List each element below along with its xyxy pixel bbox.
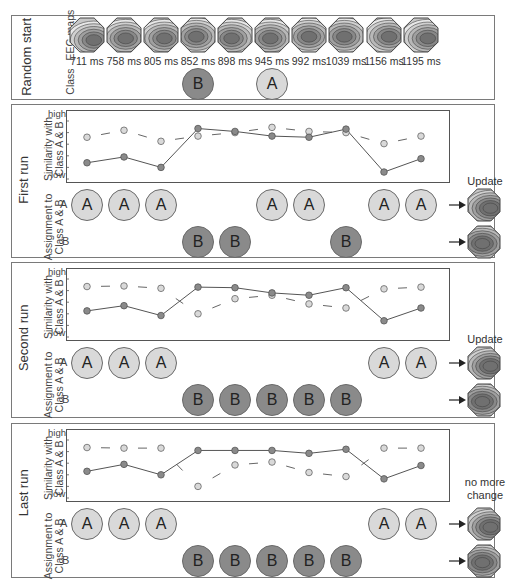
map-time-caption: 1039 ms (326, 55, 366, 67)
class-a-circle: A (71, 347, 103, 379)
eeg-map-icon (181, 18, 215, 56)
class-b-circle: B (293, 545, 325, 577)
row-label-b: B (62, 235, 69, 247)
class-a-circle: A (108, 508, 140, 540)
map-time-caption: 945 ms (255, 55, 289, 67)
eeg-map-icon (329, 18, 363, 56)
map-time-caption: 1195 ms (401, 55, 441, 67)
eeg-map-icon (218, 18, 252, 56)
class-a-circle: A (368, 189, 400, 221)
panel-first-run: First runSimilarity with Class A & BAssi… (11, 104, 495, 258)
class-circle-b: B (182, 68, 214, 100)
class-b-circle: B (330, 226, 362, 258)
class-a-circle: A (256, 189, 288, 221)
arrow-right-icon (449, 237, 467, 247)
class-a-circle: A (71, 508, 103, 540)
arrow-right-icon (449, 358, 467, 368)
map-time-caption: 898 ms (218, 55, 252, 67)
class-a-circle: A (108, 189, 140, 221)
eeg-map-icon (144, 18, 178, 56)
class-a-circle: A (145, 347, 177, 379)
row-label-b: B (62, 393, 69, 405)
row-label-b: B (62, 554, 69, 566)
class-b-circle: B (219, 384, 251, 416)
updated-map-b-icon (468, 384, 500, 420)
class-b-circle: B (182, 226, 214, 258)
update-status-note: Update (462, 333, 508, 346)
class-b-circle: B (330, 384, 362, 416)
panel-random-start: Random start EEG maps Class 711 ms758 ms… (11, 15, 495, 100)
class-b-circle: B (293, 384, 325, 416)
class-b-circle: B (182, 545, 214, 577)
eeg-map-icon (367, 18, 401, 56)
map-time-caption: 992 ms (292, 55, 326, 67)
map-time-caption: 758 ms (107, 55, 141, 67)
update-status-note: Update (462, 175, 508, 188)
class-a-circle: A (145, 189, 177, 221)
class-a-circle: A (405, 508, 437, 540)
map-time-caption: 852 ms (181, 55, 215, 67)
updated-map-a-icon (468, 189, 500, 225)
updated-map-a-icon (468, 508, 500, 544)
eeg-map-icon (404, 18, 438, 56)
panel-title-random-start: Random start (20, 17, 34, 97)
class-circle-a: A (256, 68, 288, 100)
class-a-circle: A (405, 347, 437, 379)
arrow-right-icon (449, 556, 467, 566)
class-b-circle: B (219, 226, 251, 258)
eeg-map-icon (70, 18, 104, 56)
class-b-circle: B (219, 545, 251, 577)
similarity-lines (12, 424, 496, 504)
eeg-map-icon (107, 18, 141, 56)
row-label-a: A (60, 356, 67, 368)
row-label-a: A (60, 198, 67, 210)
arrow-right-icon (449, 519, 467, 529)
map-time-caption: 805 ms (144, 55, 178, 67)
updated-map-a-icon (468, 347, 500, 383)
eeg-map-icon (292, 18, 326, 56)
class-b-circle: B (256, 545, 288, 577)
class-b-circle: B (330, 545, 362, 577)
panel-second-run: Second runSimilarity with Class A & BAss… (11, 262, 495, 418)
update-status-note: no more change (462, 476, 508, 501)
class-a-circle: A (368, 347, 400, 379)
class-a-circle: A (145, 508, 177, 540)
updated-map-b-icon (468, 545, 500, 581)
eeg-map-icon (255, 18, 289, 56)
class-a-circle: A (368, 508, 400, 540)
class-a-circle: A (405, 189, 437, 221)
arrow-right-icon (449, 200, 467, 210)
row-label-a: A (60, 517, 67, 529)
map-time-caption: 1156 ms (364, 55, 404, 67)
similarity-lines (12, 263, 496, 343)
class-b-circle: B (182, 384, 214, 416)
class-a-circle: A (293, 189, 325, 221)
arrow-right-icon (449, 395, 467, 405)
panel-last-run: Last runSimilarity with Class A & BAssig… (11, 423, 495, 578)
class-a-circle: A (71, 189, 103, 221)
similarity-lines (12, 105, 496, 185)
class-a-circle: A (108, 347, 140, 379)
class-b-circle: B (256, 384, 288, 416)
map-time-caption: 711 ms (70, 55, 104, 67)
updated-map-b-icon (468, 226, 500, 262)
row-label-class: Class (65, 67, 76, 97)
